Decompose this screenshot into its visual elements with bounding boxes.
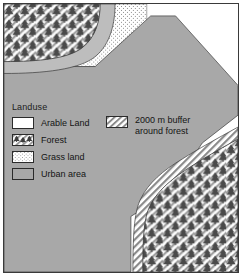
map-frame: Landuse Arable Land [3, 3, 239, 273]
legend-item-forest: Forest [12, 132, 90, 148]
legend-item-label: Urban area [41, 169, 86, 179]
legend-item-grass-land: Grass land [12, 149, 90, 165]
legend-landuse-column: Arable Land Forest [12, 115, 90, 183]
solid-gray-swatch-icon [12, 168, 34, 180]
diagonal-hatch-swatch-icon [106, 116, 128, 128]
tree-hatch-swatch-icon [12, 134, 34, 146]
legend-item-label: Grass land [41, 152, 85, 162]
buffer-label-line1: 2000 m buffer [135, 115, 190, 126]
legend-item-label: Arable Land [41, 118, 90, 128]
map-legend: Landuse Arable Land [10, 102, 232, 188]
buffer-label-line2: around forest [135, 126, 190, 137]
legend-title: Landuse [12, 102, 47, 112]
legend-item-label-block: 2000 m buffer around forest [135, 115, 190, 137]
white-fill-swatch-icon [12, 117, 34, 129]
legend-item-label: Forest [41, 135, 67, 145]
legend-item-arable-land: Arable Land [12, 115, 90, 131]
legend-item-buffer: 2000 m buffer around forest [106, 115, 190, 137]
legend-item-urban-area: Urban area [12, 166, 90, 182]
stipple-dot-swatch-icon [12, 151, 34, 163]
landuse-map-figure: Landuse Arable Land [0, 0, 242, 276]
legend-buffer-column: 2000 m buffer around forest [106, 115, 190, 137]
